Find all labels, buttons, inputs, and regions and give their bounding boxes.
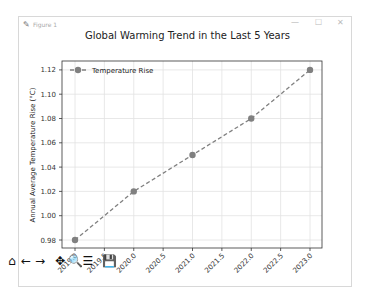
- x-tick-label: 2023.0: [291, 252, 314, 275]
- x-tick-label: 2022.5: [262, 252, 285, 275]
- legend: Temperature Rise: [70, 67, 153, 75]
- y-axis-label: Annual Average Temperature Rise (°C): [29, 87, 37, 222]
- y-tick-label: 1.00: [40, 212, 56, 220]
- y-tick-label: 1.02: [40, 188, 56, 196]
- x-tick-label: 2020.5: [145, 252, 168, 275]
- data-point: [72, 237, 78, 243]
- forward-icon[interactable]: →: [34, 254, 46, 268]
- x-tick-label: 2021.5: [203, 252, 226, 275]
- x-tick-label: 2021.0: [174, 252, 197, 275]
- y-axis-ticks: 0.981.001.021.041.061.081.101.12: [40, 66, 62, 244]
- zoom-icon[interactable]: 🔍: [68, 254, 80, 268]
- pan-icon[interactable]: ✥: [54, 254, 66, 268]
- legend-marker-icon: [75, 67, 81, 73]
- configure-subplots-icon[interactable]: ☰: [82, 254, 94, 268]
- x-tick-label: 2022.0: [233, 252, 256, 275]
- y-tick-label: 1.10: [40, 91, 56, 99]
- y-tick-label: 1.04: [40, 164, 56, 172]
- y-tick-label: 1.08: [40, 115, 56, 123]
- data-point: [248, 115, 254, 121]
- save-icon[interactable]: 💾: [102, 254, 114, 268]
- y-tick-label: 1.06: [40, 139, 56, 147]
- legend-label: Temperature Rise: [91, 67, 153, 75]
- y-tick-label: 0.98: [40, 237, 56, 245]
- back-icon[interactable]: ←: [20, 254, 32, 268]
- y-tick-label: 1.12: [40, 66, 56, 74]
- data-point: [189, 152, 195, 158]
- data-point: [307, 67, 313, 73]
- data-point: [131, 188, 137, 194]
- navigation-toolbar: ⌂←→✥🔍☰💾: [6, 254, 114, 268]
- home-icon[interactable]: ⌂: [6, 254, 18, 268]
- x-tick-label: 2020.0: [115, 252, 138, 275]
